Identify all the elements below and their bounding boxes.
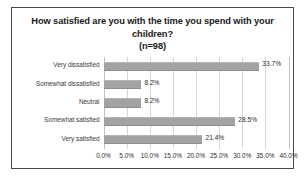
chart-subtitle: (n=98) <box>26 40 279 53</box>
bar-value-label: 28.5% <box>238 116 257 123</box>
bar-row: Somewhat satisfied28.5% <box>104 112 289 130</box>
category-label: Very satisfied <box>61 135 99 142</box>
bar-value-label: 33.7% <box>262 60 281 67</box>
bar-row: Somewhat dissatisfied8.2% <box>104 75 289 93</box>
bar-value-label: 8.2% <box>144 79 159 86</box>
x-tick-label: 15.0% <box>164 152 182 159</box>
x-axis-ticks: 0.0%5.0%10.0%15.0%20.0%25.0%30.0%35.0%40… <box>104 152 289 164</box>
x-tick-label: 30.0% <box>233 152 251 159</box>
x-tick-label: 20.0% <box>187 152 205 159</box>
x-tick-label: 5.0% <box>119 152 134 159</box>
x-tick-label: 25.0% <box>210 152 228 159</box>
x-tick-label: 40.0% <box>279 152 297 159</box>
category-label: Somewhat satisfied <box>44 116 99 123</box>
chart-frame: How satisfied are you with the time you … <box>11 7 294 169</box>
bar-row: Neutral8.2% <box>104 94 289 112</box>
bar <box>104 135 203 144</box>
bar-row: Very satisfied21.4% <box>104 131 289 149</box>
chart-title: How satisfied are you with the time you … <box>26 15 279 53</box>
bar-series: Very dissatisfied33.7%Somewhat dissatisf… <box>104 57 289 149</box>
category-label: Very dissatisfied <box>53 61 99 68</box>
x-tick-label: 0.0% <box>96 152 111 159</box>
bar <box>104 80 142 89</box>
bar-row: Very dissatisfied33.7% <box>104 57 289 75</box>
category-label: Somewhat dissatisfied <box>36 80 100 87</box>
bar <box>104 62 260 71</box>
category-label: Neutral <box>79 98 100 105</box>
chart-title-line1: How satisfied are you with the time you … <box>31 16 231 26</box>
bar-value-label: 8.2% <box>144 97 159 104</box>
gridline <box>289 57 290 149</box>
plot-area: Very dissatisfied33.7%Somewhat dissatisf… <box>104 57 289 149</box>
bar <box>104 98 142 107</box>
bar <box>104 117 236 126</box>
x-tick-label: 10.0% <box>141 152 159 159</box>
bar-value-label: 21.4% <box>205 134 224 141</box>
x-tick-label: 35.0% <box>256 152 274 159</box>
